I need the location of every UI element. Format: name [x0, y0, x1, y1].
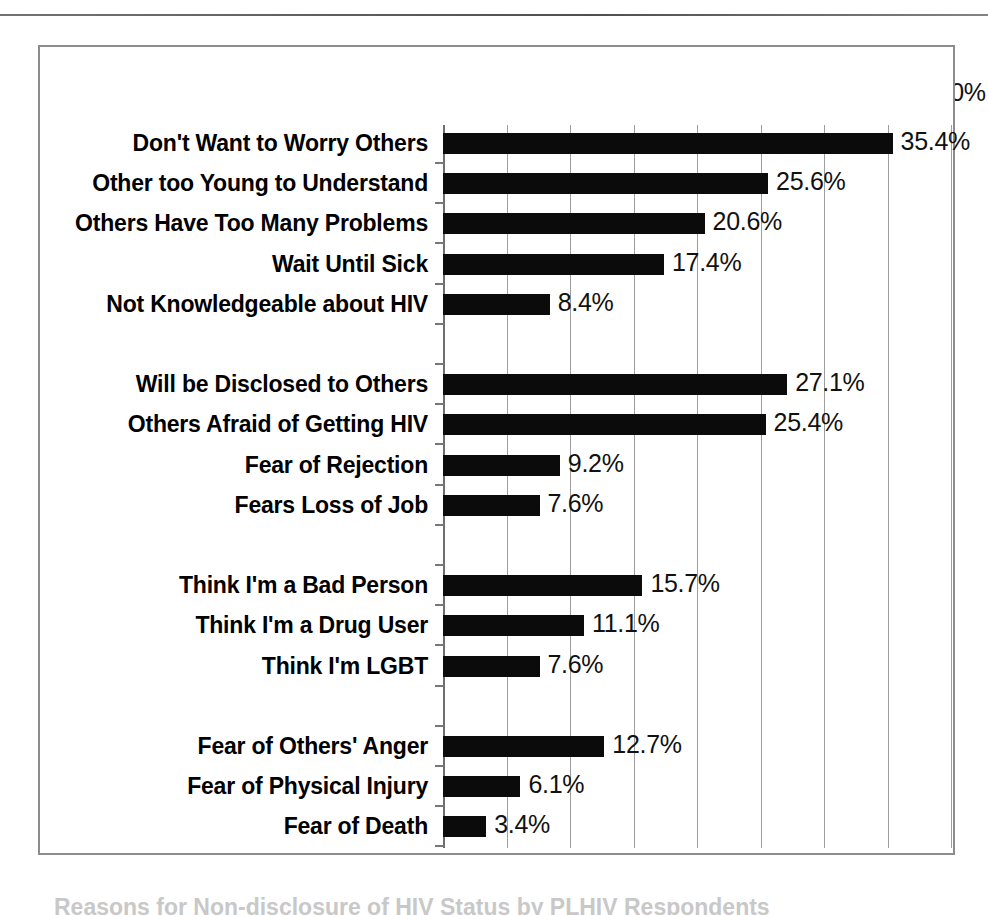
category-label: Others Have Too Many Problems [60, 213, 428, 234]
category-tick [435, 403, 444, 405]
bar-value-label: 25.6% [776, 171, 845, 192]
bar [443, 414, 766, 435]
bar-value-label: 3.4% [494, 814, 550, 835]
bar [443, 455, 560, 476]
bar [443, 213, 705, 234]
bar [443, 133, 893, 154]
bar [443, 615, 584, 636]
category-tick [435, 845, 444, 847]
category-label: Think I'm a Bad Person [60, 575, 428, 596]
bar-value-label: 17.4% [672, 252, 741, 273]
category-label: Others Afraid of Getting HIV [60, 414, 428, 435]
category-label: Fear of Death [60, 816, 428, 837]
category-tick [435, 283, 444, 285]
bar [443, 173, 768, 194]
bar [443, 816, 486, 837]
bar-value-label: 7.6% [548, 493, 604, 514]
category-tick [435, 604, 444, 606]
bar [443, 656, 540, 677]
category-label: Not Knowledgeable about HIV [60, 294, 428, 315]
category-tick [435, 162, 444, 164]
bar-value-label: 8.4% [558, 292, 614, 313]
category-label: Will be Disclosed to Others [60, 374, 428, 395]
category-tick [435, 524, 444, 526]
category-tick [435, 765, 444, 767]
category-tick [435, 805, 444, 807]
category-axis-labels: Don't Want to Worry OthersOther too Youn… [60, 125, 428, 848]
gridline [888, 125, 889, 848]
category-tick [435, 484, 444, 486]
bar-value-label: 15.7% [650, 573, 719, 594]
category-tick [435, 363, 444, 365]
bar-value-label: 27.1% [795, 372, 864, 393]
bar-value-label: 25.4% [774, 412, 843, 433]
category-tick [435, 242, 444, 244]
category-label: Fear of Rejection [60, 455, 428, 476]
category-tick [435, 323, 444, 325]
category-label: Fear of Physical Injury [60, 776, 428, 797]
bar-value-label: 9.2% [568, 453, 624, 474]
bar-value-label: 6.1% [528, 774, 584, 795]
bar [443, 374, 787, 395]
bar [443, 575, 642, 596]
bar-value-label: 20.6% [713, 211, 782, 232]
bar [443, 776, 520, 797]
gridline [824, 125, 825, 848]
category-label: Think I'm LGBT [60, 656, 428, 677]
category-tick [435, 443, 444, 445]
category-label: Don't Want to Worry Others [60, 133, 428, 154]
bar [443, 294, 550, 315]
category-tick [435, 564, 444, 566]
plot-area: 35.4%25.6%20.6%17.4%8.4%27.1%25.4%9.2%7.… [443, 125, 951, 848]
category-label: Think I'm a Drug User [60, 615, 428, 636]
bar-value-label: 11.1% [592, 613, 660, 634]
category-tick [435, 685, 444, 687]
bar [443, 254, 664, 275]
gridline [951, 125, 952, 848]
category-tick [435, 725, 444, 727]
bar-value-label: 12.7% [612, 734, 681, 755]
x-axis-tick-labels: 0.0%5.0%10.0%15.0%20.0%25.0%30.0%35.0%40… [0, 0, 988, 40]
figure-caption: Reasons for Non-disclosure of HIV Status… [54, 894, 814, 915]
category-tick [435, 644, 444, 646]
category-tick-marks [435, 125, 445, 848]
bar-value-label: 35.4% [901, 131, 970, 152]
category-label: Other too Young to Understand [60, 173, 428, 194]
bar [443, 495, 540, 516]
bar-value-label: 7.6% [548, 654, 604, 675]
category-label: Wait Until Sick [60, 254, 428, 275]
bar [443, 736, 604, 757]
category-label: Fear of Others' Anger [60, 736, 428, 757]
category-label: Fears Loss of Job [60, 495, 428, 516]
category-tick [435, 202, 444, 204]
